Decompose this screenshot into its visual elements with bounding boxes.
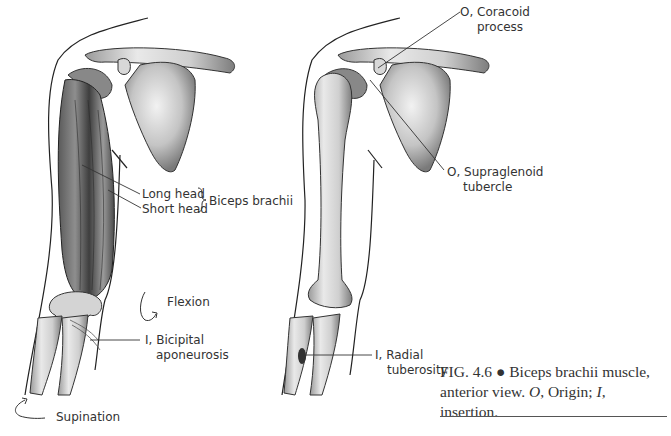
label-flexion: Flexion bbox=[167, 295, 210, 309]
figure-number: FIG. 4.6 bbox=[440, 363, 492, 380]
caption-o-abbr: O bbox=[529, 383, 540, 400]
label-biceps-brachii: Biceps brachii bbox=[209, 194, 293, 208]
label-coracoid-process-line1: O, Coracoid bbox=[460, 5, 530, 19]
flexion-arrow-icon bbox=[140, 292, 156, 321]
bullet-icon: ● bbox=[496, 363, 505, 380]
right-arm-view bbox=[282, 12, 489, 395]
label-short-head: Short head bbox=[142, 202, 208, 216]
label-supraglenoid-tubercle-line1: O, Supraglenoid bbox=[447, 165, 543, 179]
caption-view: anterior view. bbox=[440, 383, 525, 400]
label-supination: Supination bbox=[56, 410, 120, 424]
label-radial-tuberosity-line2: tuberosity bbox=[387, 363, 448, 377]
figure-caption: FIG. 4.6 ● Biceps brachii muscle, anteri… bbox=[440, 362, 666, 422]
label-coracoid-process-line2: process bbox=[477, 20, 523, 34]
label-bicipital-aponeurosis-line2: aponeurosis bbox=[156, 348, 229, 362]
label-long-head: Long head bbox=[142, 187, 205, 201]
label-supraglenoid-tubercle-line2: tubercle bbox=[463, 180, 512, 194]
caption-o-def: , Origin; bbox=[540, 383, 593, 400]
caption-line1: FIG. 4.6 ● Biceps brachii muscle, bbox=[440, 362, 666, 382]
label-radial-tuberosity-line1: I, Radial bbox=[375, 348, 423, 362]
supination-arrow-icon bbox=[15, 400, 45, 418]
caption-title: Biceps brachii muscle, bbox=[509, 363, 650, 380]
caption-divider bbox=[440, 416, 667, 417]
label-bicipital-aponeurosis-line1: I, Bicipital bbox=[145, 333, 204, 347]
